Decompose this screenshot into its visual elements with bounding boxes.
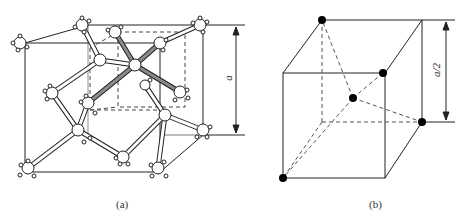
atom	[149, 160, 168, 178]
atom-dot	[279, 174, 287, 182]
atom-dot-center	[349, 94, 357, 102]
atom-dot	[379, 69, 387, 77]
atom	[11, 34, 29, 52]
panel-b-subcube	[283, 20, 455, 178]
atom	[173, 86, 190, 102]
dimension-label-a: a	[222, 72, 234, 84]
atom	[159, 109, 171, 121]
atom-dot	[418, 118, 426, 126]
dimension-label-a-half: a/2	[430, 59, 442, 81]
caption-b: (b)	[369, 198, 382, 210]
subcube-front-face	[283, 73, 385, 178]
caption-a: (a)	[116, 198, 128, 210]
atom	[140, 78, 152, 90]
crystal-structure-figure	[0, 0, 463, 221]
atom	[106, 25, 123, 38]
atom	[191, 16, 209, 34]
atom-dot	[318, 16, 326, 24]
atom	[129, 59, 141, 71]
atom	[94, 54, 106, 66]
